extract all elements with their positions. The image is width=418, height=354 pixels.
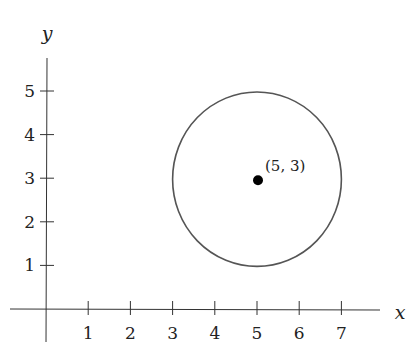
center-point-label: (5, 3) — [265, 157, 305, 175]
x-tick-label: 4 — [209, 323, 220, 343]
x-tick-label: 6 — [294, 323, 305, 343]
chart: 123456712345xy (5, 3) — [0, 0, 418, 354]
y-axis-label: y — [41, 22, 53, 44]
y-tick-label: 1 — [24, 255, 35, 275]
x-tick-label: 1 — [83, 323, 94, 343]
x-tick-label: 2 — [125, 323, 136, 343]
y-axis-line — [46, 58, 47, 342]
x-tick-label: 3 — [167, 323, 178, 343]
x-tick-label: 7 — [336, 323, 347, 343]
y-tick-label: 4 — [24, 125, 35, 145]
x-axis-line — [10, 309, 380, 310]
x-tick-label: 5 — [252, 323, 263, 343]
axes: 123456712345xy — [10, 22, 406, 343]
points: (5, 3) — [253, 157, 305, 185]
x-axis-label: x — [395, 301, 406, 323]
y-tick-label: 5 — [24, 81, 35, 101]
center-point — [253, 175, 263, 185]
y-tick-label: 2 — [24, 212, 35, 232]
y-tick-label: 3 — [24, 168, 35, 188]
